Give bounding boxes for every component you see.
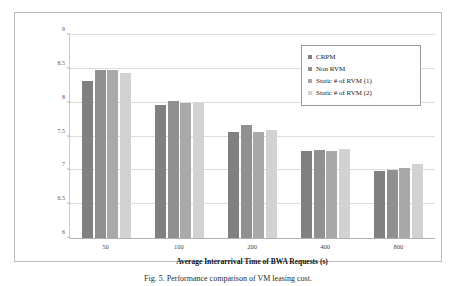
legend-swatch-icon xyxy=(308,91,312,95)
y-tick-label: 7.5 xyxy=(58,128,66,134)
x-axis-ticks: 50100200400800 xyxy=(69,239,435,255)
legend-swatch-icon xyxy=(308,67,312,71)
legend-item: Static # of RVM (2) xyxy=(308,87,414,99)
bar xyxy=(412,164,423,238)
bar-group xyxy=(216,35,289,238)
figure-caption: Fig. 5. Performance comparison of VM lea… xyxy=(0,274,456,286)
figure-frame: VM Leasing Cost (log(RC)) 66.577.588.59 … xyxy=(14,12,442,262)
x-axis-title: Average Interarrival Time of BWA Request… xyxy=(69,257,435,266)
legend-label: CRPM xyxy=(316,53,335,61)
legend-swatch-icon xyxy=(308,55,312,59)
bar xyxy=(180,103,191,238)
bar xyxy=(155,105,166,238)
bar-group xyxy=(70,35,143,238)
bar xyxy=(266,130,277,238)
bar xyxy=(193,103,204,238)
y-tick-label: 9 xyxy=(62,26,65,32)
bar xyxy=(387,170,398,238)
legend-item: Static # of RVM (1) xyxy=(308,75,414,87)
x-tick-label: 100 xyxy=(174,239,184,250)
x-tick-label: 400 xyxy=(320,239,330,250)
legend-label: Non RVM xyxy=(316,65,345,73)
y-tick-label: 6 xyxy=(62,229,65,235)
y-tick-label: 6.5 xyxy=(58,195,66,201)
legend-item: Non RVM xyxy=(308,63,414,75)
bar xyxy=(168,101,179,238)
y-tick-label: 8.5 xyxy=(58,60,66,66)
x-tick-group: 50 xyxy=(69,239,142,255)
bar xyxy=(107,70,118,238)
x-tick-group: 800 xyxy=(362,239,435,255)
bar xyxy=(326,151,337,238)
chart-legend: CRPMNon RVMStatic # of RVM (1)Static # o… xyxy=(301,45,421,106)
bar xyxy=(301,151,312,238)
x-tick-group: 200 xyxy=(215,239,288,255)
legend-label: Static # of RVM (1) xyxy=(316,77,372,85)
bar xyxy=(339,149,350,238)
x-tick-group: 100 xyxy=(142,239,215,255)
bar xyxy=(314,150,325,238)
bar xyxy=(120,73,131,238)
bar xyxy=(253,132,264,238)
bar xyxy=(399,168,410,238)
legend-item: CRPM xyxy=(308,51,414,63)
y-tick-label: 7 xyxy=(62,161,65,167)
bar xyxy=(374,171,385,238)
legend-swatch-icon xyxy=(308,79,312,83)
x-tick-label: 50 xyxy=(102,239,109,250)
bar-group xyxy=(143,35,216,238)
x-tick-label: 800 xyxy=(394,239,404,250)
bar xyxy=(95,70,106,238)
bar xyxy=(241,125,252,238)
bar xyxy=(82,81,93,238)
bar xyxy=(228,132,239,238)
legend-label: Static # of RVM (2) xyxy=(316,89,372,97)
x-tick-label: 200 xyxy=(247,239,257,250)
y-tick-label: 8 xyxy=(62,94,65,100)
x-tick-group: 400 xyxy=(289,239,362,255)
figure-container: VM Leasing Cost (log(RC)) 66.577.588.59 … xyxy=(0,0,456,286)
